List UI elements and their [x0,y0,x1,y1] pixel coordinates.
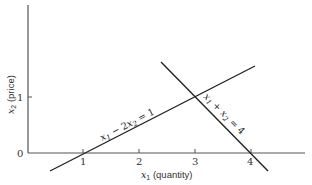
x-tick-label-2: 2 [136,156,142,167]
x-axis-label: x1 (quantity) [141,169,193,181]
x-tick-label-4: 4 [247,156,253,167]
y-tick-label-1: 1 [17,92,23,103]
x-tick-label-1: 1 [80,156,86,167]
x-tick-label-3: 3 [192,156,198,167]
line-supply-label: x1 − 2x2 = 1 [98,106,157,145]
line-demand [161,62,268,171]
y-axis-label: x2 (price) [5,75,17,114]
diagram-canvas: 0 1 1 2 3 4 x1 (quantity) x2 (price) x1 … [0,0,312,185]
line-demand-label: x1 + x2 = 4 [200,91,247,138]
y-tick-label-0: 0 [17,148,23,159]
